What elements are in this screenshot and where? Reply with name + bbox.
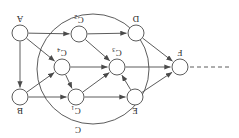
- graph-node-f[interactable]: [172, 59, 188, 75]
- graph-node-c2[interactable]: [71, 26, 87, 42]
- graph-edge: [83, 73, 109, 92]
- graph-edge: [28, 33, 69, 34]
- graph-node-c4[interactable]: [54, 59, 70, 75]
- graph-figure: C FEDC1C2C3C4BA: [0, 0, 239, 138]
- graph-node-label-c4: C4: [57, 47, 67, 58]
- graph-edge: [143, 38, 173, 61]
- graph-edge: [66, 75, 72, 89]
- graph-node-c1[interactable]: [68, 89, 84, 105]
- graph-node-label-c1: C1: [71, 105, 81, 116]
- graph-node-label-e: E: [132, 106, 138, 116]
- diagram-canvas: C FEDC1C2C3C4BA: [0, 0, 239, 138]
- graph-edge: [87, 33, 126, 34]
- graph-node-c3[interactable]: [109, 59, 125, 75]
- graph-edge: [142, 72, 172, 92]
- graph-node-e[interactable]: [127, 89, 143, 105]
- graph-node-label-f: F: [177, 48, 182, 58]
- node-group: [12, 25, 188, 105]
- graph-node-label-a: A: [16, 14, 23, 24]
- graph-edge: [27, 38, 55, 61]
- graph-node-a[interactable]: [12, 25, 28, 41]
- graph-node-label-c3: C3: [112, 47, 122, 58]
- node-label-group: FEDC1C2C3C4BA: [16, 14, 182, 116]
- graph-node-d[interactable]: [128, 25, 144, 41]
- graph-edge: [122, 75, 131, 90]
- cluster-label: C: [75, 125, 81, 135]
- graph-node-label-c2: C2: [74, 14, 84, 25]
- graph-node-label-b: B: [17, 106, 23, 116]
- graph-node-b[interactable]: [12, 89, 28, 105]
- edge-group: [20, 33, 172, 97]
- graph-edge: [85, 40, 109, 61]
- graph-svg: C FEDC1C2C3C4BA: [0, 0, 239, 138]
- graph-node-label-d: D: [132, 14, 139, 24]
